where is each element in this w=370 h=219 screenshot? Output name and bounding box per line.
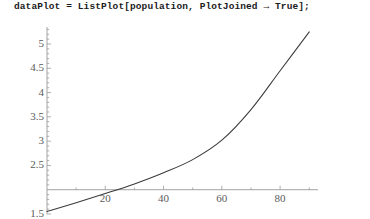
y-axis-label: 1.5 (30, 208, 44, 219)
mathematica-input-line[interactable]: dataPlot = ListPlot[population, PlotJoin… (14, 1, 310, 12)
y-axis-label: 2.5 (30, 159, 44, 170)
y-axis-label: 3.5 (30, 111, 44, 122)
y-axis-label: 4 (39, 87, 45, 98)
x-axis-label: 20 (90, 193, 120, 204)
y-axis-label: 5 (39, 38, 45, 49)
y-axis-label: 3 (39, 135, 45, 146)
x-axis-label: 60 (207, 193, 237, 204)
tick-marks-group (47, 29, 309, 214)
x-axis-label: 80 (265, 193, 295, 204)
list-plot-graphic: 1.52.533.544.55 20406080 (0, 22, 370, 219)
y-axis-label: 4.5 (30, 62, 44, 73)
x-axis-label: 40 (149, 193, 179, 204)
axes-group (47, 27, 318, 214)
data-curve-population (47, 32, 309, 212)
plot-svg (0, 22, 370, 219)
